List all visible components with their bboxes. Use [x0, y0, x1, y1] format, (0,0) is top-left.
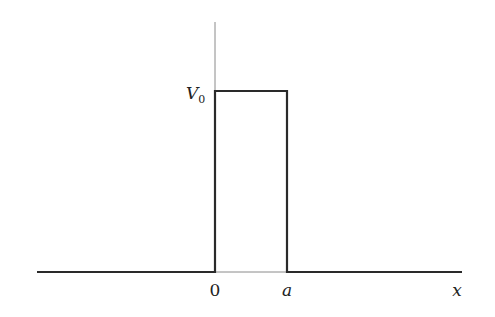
barrier-width-label: a — [282, 280, 292, 300]
v0-subscript: 0 — [198, 93, 205, 106]
v0-label: V0 — [186, 83, 205, 106]
x-axis-label: x — [452, 280, 462, 300]
potential-profile — [37, 91, 462, 272]
potential-barrier-diagram: V0 0 a x — [0, 0, 495, 317]
origin-label: 0 — [210, 280, 221, 300]
